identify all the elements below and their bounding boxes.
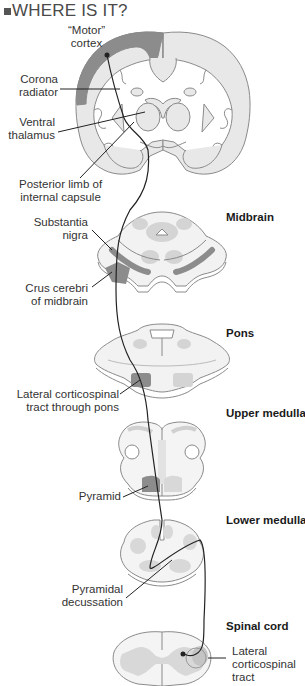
label-line: of midbrain [25, 295, 88, 308]
motor-cortex-neuron-dot [105, 53, 110, 58]
label-line: thalamus [8, 129, 55, 142]
section-title-upper-medulla: Upper medulla [226, 407, 305, 419]
label-motor-cortex: “Motor” cortex [68, 24, 105, 50]
section-title-spinal-cord: Spinal cord [226, 620, 289, 632]
label-line: decussation [62, 596, 123, 609]
label-line: cortex [68, 37, 105, 50]
label-line: Substantia [34, 216, 88, 229]
label-crus-cerebri: Crus cerebri of midbrain [25, 282, 88, 308]
section-title-lower-medulla: Lower medulla [226, 514, 305, 526]
label-posterior-limb: Posterior limb of internal capsule [19, 178, 102, 204]
label-line: Lateral [232, 645, 296, 658]
label-line: Pyramidal [62, 583, 123, 596]
pons-section [95, 324, 230, 398]
label-line: tract through pons [17, 401, 119, 414]
label-line: Ventral [8, 116, 55, 129]
label-pyramid: Pyramid [79, 490, 121, 503]
label-line: internal capsule [19, 191, 102, 204]
section-title-midbrain: Midbrain [226, 211, 274, 223]
section-title-pons: Pons [226, 327, 254, 339]
label-line: radiator [19, 86, 58, 99]
label-line: “Motor” [68, 24, 105, 37]
label-line: Lateral corticospinal [17, 388, 119, 401]
label-line: Crus cerebri [25, 282, 88, 295]
corticospinal-pathway-figure [0, 0, 305, 686]
lower-medulla-section [121, 520, 204, 586]
label-lateral-cst: Lateral corticospinal tract [232, 645, 296, 684]
upper-medulla-section [119, 422, 206, 500]
label-corona-radiator: Corona radiator [19, 73, 58, 99]
label-pyramidal-decussation: Pyramidal decussation [62, 583, 123, 609]
label-lateral-cst-pons: Lateral corticospinal tract through pons [17, 388, 119, 414]
label-line: Posterior limb of [19, 178, 102, 191]
coronal-brain-section [76, 32, 250, 174]
label-substantia-nigra: Substantia nigra [34, 216, 88, 242]
label-line: nigra [34, 229, 88, 242]
label-line: Pyramid [79, 490, 121, 503]
label-line: tract [232, 671, 296, 684]
label-line: corticospinal [232, 658, 296, 671]
label-ventral-thalamus: Ventral thalamus [8, 116, 55, 142]
spinal-cord-section [113, 632, 211, 686]
label-line: Corona [19, 73, 58, 86]
